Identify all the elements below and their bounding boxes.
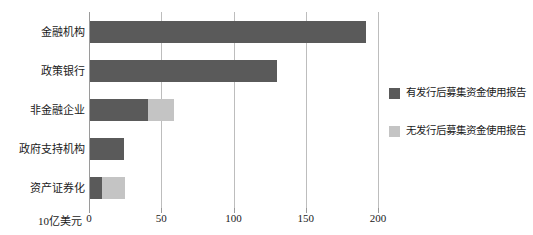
grid-line xyxy=(378,12,379,208)
bar-segment xyxy=(89,177,102,199)
category-axis-labels: 金融机构政策银行非金融企业政府支持机构资产证券化 xyxy=(0,12,85,208)
x-axis-tick xyxy=(378,208,379,213)
category-label: 金融机构 xyxy=(1,21,85,43)
legend-label: 有发行后募集资金使用报告 xyxy=(406,86,526,100)
plot-area xyxy=(89,12,378,208)
category-label: 非金融企业 xyxy=(1,99,85,121)
x-axis-tick-label: 50 xyxy=(156,212,167,224)
x-axis-tick xyxy=(161,208,162,213)
category-label: 政府支持机构 xyxy=(1,138,85,160)
category-label: 资产证券化 xyxy=(1,177,85,199)
legend-item[interactable]: 有发行后募集资金使用报告 xyxy=(389,86,533,100)
x-axis-tick-label: 100 xyxy=(225,212,242,224)
category-label: 政策银行 xyxy=(1,60,85,82)
legend: 有发行后募集资金使用报告无发行后募集资金使用报告 xyxy=(389,86,533,162)
x-axis-tick-label: 150 xyxy=(298,212,315,224)
x-axis-tick xyxy=(234,208,235,213)
legend-label: 无发行后募集资金使用报告 xyxy=(406,124,526,138)
bar-segment xyxy=(102,177,125,199)
bar-segment xyxy=(89,99,148,121)
y-axis-line xyxy=(89,12,90,208)
x-axis-unit-label: 10亿美元 xyxy=(38,212,82,228)
bar-segment xyxy=(148,99,174,121)
bar-segment xyxy=(89,138,124,160)
bar-chart: 金融机构政策银行非金融企业政府支持机构资产证券化 050100150200 10… xyxy=(0,0,533,235)
x-axis-tick-label: 0 xyxy=(86,212,92,224)
x-axis-tick xyxy=(89,208,90,213)
legend-swatch-icon xyxy=(389,126,400,137)
bar-segment xyxy=(89,21,366,43)
bar-segment xyxy=(89,60,277,82)
x-axis-tick-label: 200 xyxy=(370,212,387,224)
legend-item[interactable]: 无发行后募集资金使用报告 xyxy=(389,124,533,138)
x-axis-tick xyxy=(306,208,307,213)
legend-swatch-icon xyxy=(389,88,400,99)
